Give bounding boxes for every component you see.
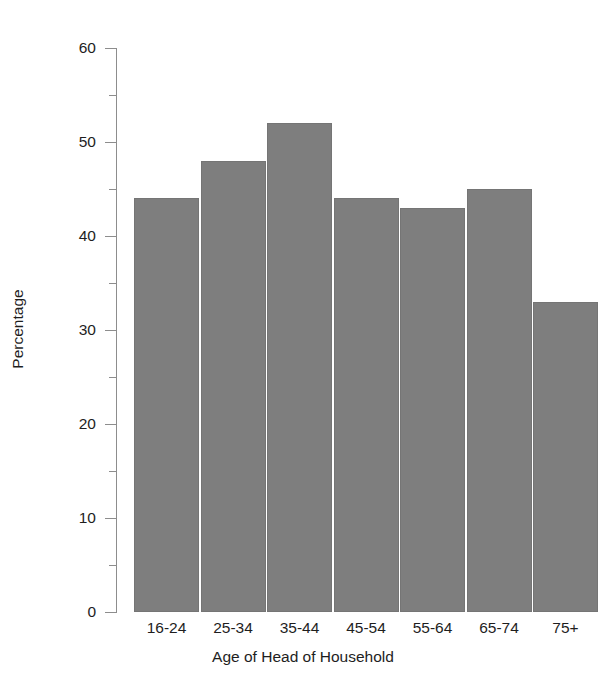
- y-tick-label: 50: [50, 134, 96, 150]
- x-tick-label: 55-64: [400, 620, 465, 636]
- x-tick-label: 45-54: [334, 620, 399, 636]
- y-tick-label: 0: [50, 604, 96, 620]
- bar: [134, 198, 199, 612]
- y-tick-minor: [109, 565, 116, 566]
- bar: [334, 198, 399, 612]
- y-tick-major: [105, 424, 116, 425]
- bar: [267, 123, 332, 612]
- bar: [201, 161, 266, 612]
- y-tick-major: [105, 518, 116, 519]
- y-tick-major: [105, 48, 116, 49]
- x-tick-label: 65-74: [467, 620, 532, 636]
- bar: [533, 302, 598, 612]
- y-tick-label: 40: [50, 228, 96, 244]
- bar: [467, 189, 532, 612]
- y-tick-label: 10: [50, 510, 96, 526]
- bar: [400, 208, 465, 612]
- y-tick-label: 60: [50, 40, 96, 56]
- y-tick-minor: [109, 377, 116, 378]
- x-axis-title: Age of Head of Household: [0, 648, 606, 666]
- y-tick-major: [105, 236, 116, 237]
- y-tick-major: [105, 330, 116, 331]
- y-tick-minor: [109, 471, 116, 472]
- y-tick-minor: [109, 95, 116, 96]
- x-tick-label: 25-34: [201, 620, 266, 636]
- y-tick-minor: [109, 283, 116, 284]
- plot-area: [116, 48, 586, 612]
- bar-series: [116, 48, 586, 612]
- y-tick-label: 20: [50, 416, 96, 432]
- x-tick-label: 35-44: [267, 620, 332, 636]
- bar-chart: 0102030405060 16-2425-3435-4445-5455-646…: [0, 0, 606, 698]
- y-axis-title: Percentage: [9, 249, 27, 409]
- y-tick-major: [105, 142, 116, 143]
- y-tick-label: 30: [50, 322, 96, 338]
- y-tick-minor: [109, 189, 116, 190]
- x-tick-label: 16-24: [134, 620, 199, 636]
- y-tick-major: [105, 612, 116, 613]
- x-tick-label: 75+: [533, 620, 598, 636]
